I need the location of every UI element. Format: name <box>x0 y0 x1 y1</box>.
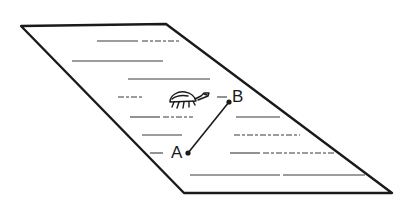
point-a-label: A <box>171 144 182 161</box>
insect-icon <box>170 92 209 108</box>
segment-a-b <box>188 102 229 153</box>
point-a-dot <box>185 150 190 155</box>
point-b-label: B <box>232 88 243 105</box>
point-b-dot <box>226 99 231 104</box>
text-lines <box>72 41 365 175</box>
sheet-outline <box>21 24 392 193</box>
diagram-canvas <box>0 0 411 209</box>
